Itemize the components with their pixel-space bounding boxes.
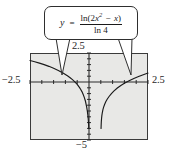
plot-canvas bbox=[30, 53, 148, 140]
equation-equals-sign: = bbox=[70, 19, 75, 28]
formula-callout: y = ln(2x2 − x) ln 4 bbox=[44, 6, 138, 40]
equation-y-symbol: y bbox=[60, 18, 64, 28]
callout-content: y = ln(2x2 − x) ln 4 bbox=[44, 6, 138, 40]
window-xmax-label: 2.5 bbox=[152, 74, 165, 85]
curve-left-branch bbox=[30, 61, 89, 129]
window-ymax-label: 2.5 bbox=[72, 40, 85, 51]
equation-denominator: ln 4 bbox=[93, 25, 109, 35]
equation-fraction: ln(2x2 − x) ln 4 bbox=[80, 11, 122, 36]
window-xmin-label: −2.5 bbox=[2, 74, 20, 85]
equation-numerator: ln(2x2 − x) bbox=[80, 11, 122, 23]
graph-figure: y = ln(2x2 − x) ln 4 −2.5 2.5 2.5 −5 bbox=[0, 0, 176, 153]
window-ymin-label: −5 bbox=[76, 139, 87, 150]
